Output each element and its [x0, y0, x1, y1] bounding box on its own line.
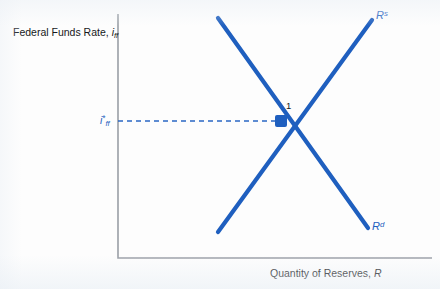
y-axis-title-text: Federal Funds Rate, — [13, 26, 112, 38]
demand-symbol: R — [372, 220, 380, 232]
x-axis-title: Quantity of Reserves, R — [270, 267, 381, 279]
supply-demand-plot — [0, 0, 440, 289]
y-axis-subscript: ff — [114, 31, 118, 40]
x-axis-title-text: Quantity of Reserves, — [270, 267, 374, 279]
equilibrium-rate-subscript: ff — [106, 119, 110, 128]
chart-axes — [118, 14, 432, 258]
supply-symbol: R — [376, 9, 384, 21]
reserve-demand-curve — [218, 18, 368, 228]
y-axis-title: Federal Funds Rate, iff — [13, 26, 118, 40]
equilibrium-point-marker — [275, 115, 287, 127]
x-axis-symbol: R — [374, 267, 382, 279]
figure-root: Federal Funds Rate, iff Quantity of Rese… — [0, 0, 440, 289]
reserve-supply-curve-label: Rs — [376, 9, 388, 21]
supply-superscript: s — [384, 9, 388, 18]
reserve-demand-curve-label: Rd — [372, 220, 384, 232]
demand-superscript: d — [380, 220, 384, 229]
equilibrium-point-label: 1 — [286, 100, 291, 111]
equilibrium-rate-label: i*ff — [100, 113, 110, 128]
